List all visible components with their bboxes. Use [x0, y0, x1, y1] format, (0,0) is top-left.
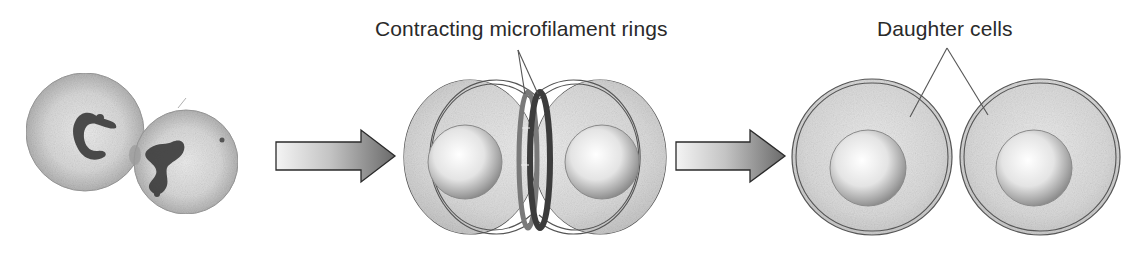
arrow-right-icon	[676, 130, 785, 182]
nucleus	[996, 130, 1072, 206]
micrograph-debris	[220, 138, 225, 143]
arrow-right-icon	[276, 130, 395, 182]
dividing-cell	[400, 78, 670, 238]
micrograph-dividing-cell	[26, 73, 238, 214]
rings-leader-lines	[518, 50, 538, 94]
nucleus	[830, 130, 906, 206]
micrograph-right-cell	[134, 110, 238, 214]
nucleus-left	[428, 125, 502, 199]
rings-label: Contracting microfilament rings	[375, 17, 668, 41]
micrograph-furrow	[129, 145, 141, 165]
micrograph-debris	[178, 98, 186, 108]
daughter-cells-label: Daughter cells	[877, 17, 1013, 41]
micrograph-left-cell	[26, 73, 144, 191]
daughter-cell-left	[792, 79, 952, 235]
nucleus-right	[565, 125, 639, 199]
daughter-cell-right	[960, 79, 1120, 235]
